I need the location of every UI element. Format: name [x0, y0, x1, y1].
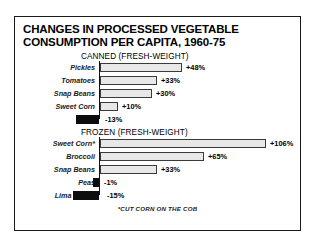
value-label: +33%: [161, 164, 180, 175]
bar-negative: [73, 191, 99, 200]
bar-positive: [100, 139, 266, 148]
chart-screenshot: CHANGES IN PROCESSED VEGETABLE CONSUMPTI…: [0, 0, 320, 252]
bar-row: Broccoli +65%: [15, 151, 300, 162]
bar-negative: [93, 178, 99, 187]
bar-row: Peas -1%: [15, 177, 300, 188]
chart-footnote: *CUT CORN ON THE COB: [15, 205, 300, 212]
plot-area-frozen: Sweet Corn* +106% Broccoli +65% Snap Bea…: [15, 17, 300, 230]
value-label: -1%: [104, 177, 117, 188]
category-label: Peas: [15, 177, 95, 188]
value-label: -15%: [107, 190, 124, 201]
category-label: Snap Beans: [15, 164, 95, 175]
value-label: +65%: [208, 151, 227, 162]
bar-positive: [100, 152, 204, 161]
bar-row: Snap Beans +33%: [15, 164, 300, 175]
bar-positive: [100, 165, 157, 174]
category-label: Broccoli: [15, 151, 95, 162]
value-label: +106%: [270, 138, 293, 149]
chart-frame: CHANGES IN PROCESSED VEGETABLE CONSUMPTI…: [14, 16, 301, 231]
bar-row: Sweet Corn* +106%: [15, 138, 300, 149]
category-label: Sweet Corn*: [15, 138, 95, 149]
bar-row: Lima Beans -15%: [15, 190, 300, 201]
